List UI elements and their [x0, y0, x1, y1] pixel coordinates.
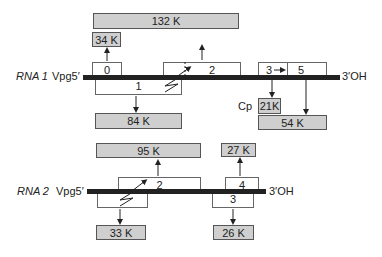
frameshift-zigzag-icon: [120, 192, 133, 206]
frameshift-zigzag-icon: [165, 78, 178, 92]
arrows-overlay: [0, 0, 382, 257]
frameshift-arrow-icon: [128, 181, 145, 194]
frameshift-arrow-icon: [172, 68, 189, 80]
